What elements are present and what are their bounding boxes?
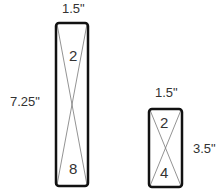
short-panel-bottom-number: 4 — [160, 164, 168, 181]
short-panel-width-label: 1.5" — [155, 85, 178, 100]
tall-panel-bottom-number: 8 — [69, 160, 77, 177]
short-panel-top-number: 2 — [160, 114, 168, 131]
tall-panel-width-label: 1.5" — [62, 1, 85, 16]
tall-panel-height-label: 7.25" — [10, 94, 40, 109]
short-panel-height-label: 3.5" — [193, 141, 216, 156]
tall-panel-top-number: 2 — [69, 47, 77, 64]
